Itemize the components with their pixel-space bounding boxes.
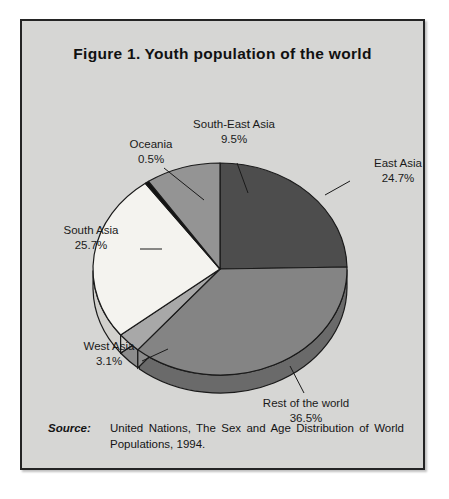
slice-label-south-east-asia: South-East Asia 9.5% xyxy=(174,117,294,146)
slice-label-name: South Asia xyxy=(40,223,142,238)
page-title: Figure 1.Youth population of the world xyxy=(22,45,423,63)
source-note: Source: United Nations, The Sex and Age … xyxy=(48,421,404,453)
slice-label-name: Oceania xyxy=(110,137,192,152)
slice-label-east-asia: East Asia 24.7% xyxy=(352,156,444,185)
slice-label-name: South-East Asia xyxy=(174,117,294,132)
slice-label-value: 0.5% xyxy=(110,152,192,167)
figure-number: Figure 1. xyxy=(73,45,140,62)
pie-chart: South-East Asia 9.5% Oceania 0.5% East A… xyxy=(22,71,423,411)
slice-label-value: 3.1% xyxy=(60,354,158,369)
slice-label-name: West Asia xyxy=(60,339,158,354)
slice-label-value: 24.7% xyxy=(352,171,444,186)
slice-label-name: East Asia xyxy=(352,156,444,171)
slice-label-oceania: Oceania 0.5% xyxy=(110,137,192,166)
slice-label-south-asia: South Asia 25.7% xyxy=(40,223,142,252)
slice-label-name: Rest of the world xyxy=(232,396,380,411)
source-label: Source: xyxy=(48,421,104,437)
source-text: United Nations, The Sex and Age Distribu… xyxy=(110,421,404,453)
slice-label-value: 9.5% xyxy=(174,132,294,147)
slice-label-value: 25.7% xyxy=(40,238,142,253)
pie-slice-east-asia xyxy=(220,163,347,269)
slice-label-west-asia: West Asia 3.1% xyxy=(60,339,158,368)
figure-frame: Figure 1.Youth population of the world S… xyxy=(20,19,425,470)
figure-title-text: Youth population of the world xyxy=(145,45,372,62)
